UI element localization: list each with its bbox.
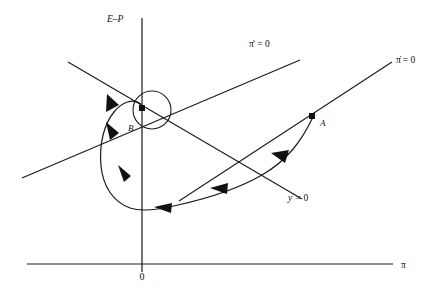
nullcline-label-y-prime-prime: ′: [292, 192, 294, 200]
x-axis-label: π: [401, 260, 406, 270]
trajectory-arrow-2: [210, 183, 228, 194]
trajectory-arrow-1: [271, 150, 289, 163]
nullcline-label-pi-dot: π̇= 0: [396, 55, 416, 65]
phase-diagram-figure: E–P π 0 π̇′= 0 π̇= 0 y′= 0 A B: [0, 0, 443, 297]
nullcline-label-y-prime-rhs: = 0: [296, 193, 309, 203]
phase-diagram-canvas: E–P π 0 π̇′= 0 π̇= 0 y′= 0 A B: [0, 0, 443, 297]
nullcline-label-pi-dot-prime-rhs: = 0: [257, 39, 270, 49]
nullcline-label-pi-dot-prime-prime: ′: [254, 39, 256, 47]
nullcline-label-pi-dot-prime: π̇′= 0: [249, 39, 270, 49]
origin-label: 0: [140, 271, 145, 282]
trajectory-arrow-3: [154, 203, 172, 213]
nullcline-label-pi-dot-rhs: = 0: [403, 55, 416, 65]
y-axis-label: E–P: [106, 14, 124, 24]
point-label-a: A: [319, 118, 326, 128]
point-marker-b: [139, 105, 145, 111]
nullcline-pi-dot-prime: [22, 60, 300, 178]
svg-text:y′= 0: y′= 0: [287, 192, 308, 203]
nullcline-pi-dot: [179, 62, 392, 201]
point-marker-a: [309, 113, 315, 119]
svg-text:π̇′= 0: π̇′= 0: [249, 39, 270, 49]
svg-text:π̇= 0: π̇= 0: [396, 55, 416, 65]
nullcline-label-y-prime: y′= 0: [287, 192, 308, 203]
trajectory-arrow-4: [118, 165, 131, 182]
nullcline-label-pi-dot-base: π̇: [396, 55, 402, 65]
point-label-b: B: [128, 123, 134, 133]
